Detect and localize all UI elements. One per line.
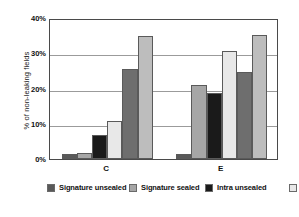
chart-legend: Signature unsealedSignature sealedIntra …	[47, 181, 292, 194]
y-tick-label: 20%	[20, 86, 46, 94]
bar-series-container	[50, 20, 277, 159]
bar	[122, 69, 137, 159]
legend-item: Intra unsealed	[205, 181, 289, 194]
y-tick-label: 10%	[20, 121, 46, 129]
bar	[107, 121, 122, 159]
x-tick-label: C	[86, 164, 126, 173]
y-tick-label: 30%	[20, 50, 46, 58]
bar	[191, 85, 206, 159]
bar	[252, 35, 267, 159]
legend-item: Signature sealed	[129, 181, 205, 194]
chart-page: % of non-leaking fields 0%10%20%30%40% C…	[0, 0, 299, 217]
y-axis-tick-labels: 0%10%20%30%40%	[14, 0, 46, 217]
bar	[176, 154, 191, 159]
plot-area	[49, 19, 278, 160]
bar	[207, 93, 222, 159]
legend-label: Signature unsealed	[59, 183, 126, 192]
bar	[138, 36, 153, 159]
legend-swatch-icon	[47, 184, 55, 192]
bar	[237, 72, 252, 159]
y-tick-label: 40%	[20, 15, 46, 23]
legend-swatch-icon	[205, 184, 213, 192]
x-tick-label: E	[201, 164, 241, 173]
legend-item: Intra sealed	[289, 181, 299, 194]
legend-item: Signature unsealed	[47, 181, 129, 194]
legend-label: Intra unsealed	[217, 183, 266, 192]
bar	[77, 153, 92, 159]
legend-swatch-icon	[289, 184, 297, 192]
legend-swatch-icon	[129, 184, 137, 192]
bar	[62, 154, 77, 159]
legend-label: Signature sealed	[141, 183, 199, 192]
bar	[222, 51, 237, 159]
bar	[92, 135, 107, 159]
y-tick-label: 0%	[20, 156, 46, 164]
